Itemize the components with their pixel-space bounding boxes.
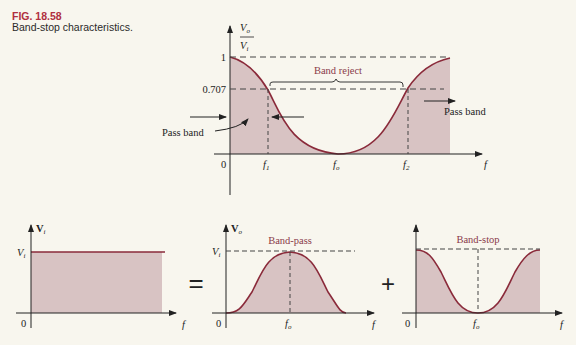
top-plot: Band reject Vo Vi 1 0.707 0 f f1 fo f2 P… — [162, 22, 489, 195]
y-label-numerator: Vo — [240, 22, 250, 35]
equals-sign: = — [188, 268, 203, 298]
band-stop-title: Band-stop — [456, 234, 499, 245]
y-tick-1: 1 — [221, 52, 226, 63]
band-stop-x-tick-fo: fo — [473, 318, 480, 331]
band-pass-x-label: f — [372, 319, 377, 330]
band-reject-label: Band reject — [314, 65, 362, 76]
band-stop-origin: 0 — [405, 318, 410, 329]
x-tick-f1: f1 — [263, 159, 269, 172]
origin-label: 0 — [221, 159, 226, 170]
pass-band-left-label: Pass band — [162, 127, 204, 138]
band-stop-diagram: Band reject Vo Vi 1 0.707 0 f f1 fo f2 P… — [0, 0, 576, 345]
y-tick-0707: 0.707 — [202, 84, 226, 95]
y-label-denominator: Vi — [240, 40, 248, 53]
band-stop-x-label: f — [560, 319, 565, 330]
input-origin-label: 0 — [21, 318, 26, 329]
pass-band-right-label: Pass band — [444, 106, 486, 117]
input-plot: Vi Vi 0 f — [16, 223, 187, 330]
band-pass-origin: 0 — [216, 318, 221, 329]
input-y-label: Vi — [36, 223, 46, 236]
input-x-label: f — [182, 319, 187, 330]
band-pass-y-label: Vo — [231, 223, 243, 236]
band-pass-x-tick-fo: fo — [285, 318, 292, 331]
band-pass-title: Band-pass — [268, 235, 312, 246]
x-tick-f2: f2 — [403, 159, 410, 172]
band-pass-level-label: Vi — [212, 246, 220, 259]
band-reject-brace — [270, 79, 403, 87]
plus-sign: + — [381, 270, 395, 297]
band-pass-plot: Vo Vi Band-pass 0 fo f — [212, 223, 377, 331]
input-fill — [31, 252, 162, 313]
x-tick-fo: fo — [333, 159, 340, 172]
band-stop-plot: Band-stop 0 fo f — [402, 225, 565, 331]
input-level-label: Vi — [17, 247, 25, 260]
x-axis-label: f — [484, 159, 489, 170]
